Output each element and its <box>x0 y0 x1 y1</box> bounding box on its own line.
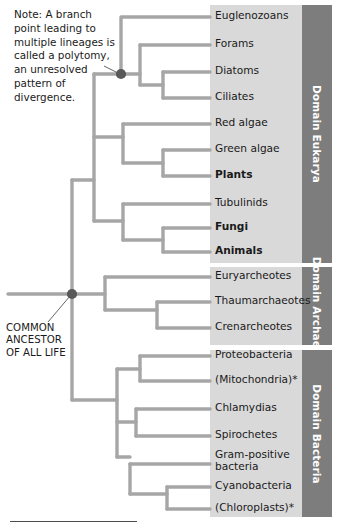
taxon-label: Diatoms <box>215 65 259 77</box>
taxon-label: Animals <box>215 245 263 257</box>
taxon-label: Euglenozoans <box>215 10 289 22</box>
phylogenetic-tree-figure: Domain Eukarya Domain Archaea Domain Bac… <box>0 0 340 529</box>
taxon-label: Tubulinids <box>215 197 268 209</box>
taxon-label: Fungi <box>215 221 248 233</box>
taxon-label: Spirochetes <box>215 429 277 441</box>
common-ancestor-node-dot <box>67 289 77 299</box>
footnote-rule <box>10 521 137 522</box>
taxon-label: Cyanobacteria <box>215 480 292 492</box>
taxon-label: (Mitochondria)* <box>215 374 298 386</box>
polytomy-note: Note: A branch point leading to multiple… <box>14 8 118 105</box>
taxon-label: Thaumarchaeotes <box>215 295 311 307</box>
taxon-label: Proteobacteria <box>215 349 292 361</box>
taxon-label: Euryarcheotes <box>215 270 291 282</box>
taxon-label: Ciliates <box>215 91 254 103</box>
common-ancestor-label: COMMON ANCESTOR OF ALL LIFE <box>6 322 106 359</box>
taxon-label: Gram-positive bacteria <box>215 449 290 473</box>
taxon-label: Plants <box>215 169 252 181</box>
taxon-label: Green algae <box>215 143 280 155</box>
leader-line-common-ancestor <box>48 296 70 322</box>
taxon-label: Crenarcheotes <box>215 321 292 333</box>
taxon-label: Red algae <box>215 117 268 129</box>
taxon-label: Forams <box>215 38 254 50</box>
taxon-label: Chlamydias <box>215 402 277 414</box>
taxon-label: (Chloroplasts)* <box>215 502 294 514</box>
